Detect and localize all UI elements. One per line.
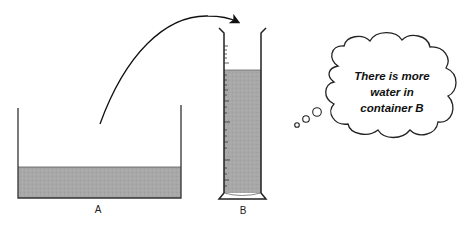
container-a (18, 105, 181, 198)
container-b (219, 28, 266, 199)
thought-line-3: container B (336, 100, 448, 116)
thought-line-1: There is more (336, 68, 448, 84)
container-b-water (224, 70, 261, 193)
thought-text: There is more water in container B (336, 68, 448, 116)
container-b-label: B (240, 205, 247, 216)
pour-arrow (100, 16, 238, 124)
thought-line-2: water in (336, 84, 448, 100)
container-a-water (18, 167, 181, 198)
container-a-label: A (95, 204, 102, 215)
